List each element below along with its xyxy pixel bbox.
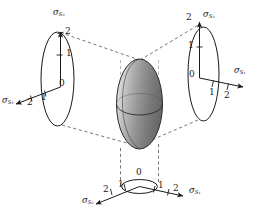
bottom-tick-label-r2: 2 <box>173 184 179 193</box>
panel-left <box>16 32 74 126</box>
bottom-tick-l1 <box>124 184 126 190</box>
right-origin-label: 0 <box>189 70 195 79</box>
bottom-origin-label: 0 <box>136 168 142 177</box>
bottom-left-axis-label: σS₂ <box>82 196 94 206</box>
right-tick-label-v2: 2 <box>186 13 192 22</box>
right-diagonal-axis-label: σS₁ <box>234 66 246 76</box>
right-diagonal-axis <box>200 78 244 87</box>
left-origin-label: 0 <box>59 79 65 88</box>
bottom-tick-label-l1: 1 <box>118 180 124 189</box>
left-tick-label-v2: 2 <box>65 27 71 36</box>
left-tick-label-d1: 1 <box>41 93 47 102</box>
left-projection-ellipse <box>41 32 74 126</box>
right-tick-label-d1: 1 <box>209 88 215 97</box>
panel-bottom <box>96 180 183 205</box>
bottom-right-axis-label: σS₁ <box>189 186 201 196</box>
right-tick-label-d2: 2 <box>224 91 230 100</box>
left-diagonal-axis-label: σS₂ <box>2 96 14 106</box>
bottom-tick-label-r1: 1 <box>158 181 164 190</box>
bottom-tick-label-l2: 2 <box>103 185 109 194</box>
projection-diagram <box>0 0 257 213</box>
left-tick-label-v1: 1 <box>66 49 72 58</box>
right-vertical-axis-label: σS₃ <box>203 10 215 20</box>
ellipsoid-body <box>117 59 163 149</box>
left-vertical-axis-label: σS₃ <box>53 8 65 18</box>
right-tick-label-v1: 1 <box>188 41 194 50</box>
center-ellipsoid <box>117 59 163 149</box>
left-diagonal-axis <box>16 87 61 104</box>
bottom-tick-l2 <box>111 189 113 195</box>
left-tick-label-d2: 2 <box>27 98 33 107</box>
